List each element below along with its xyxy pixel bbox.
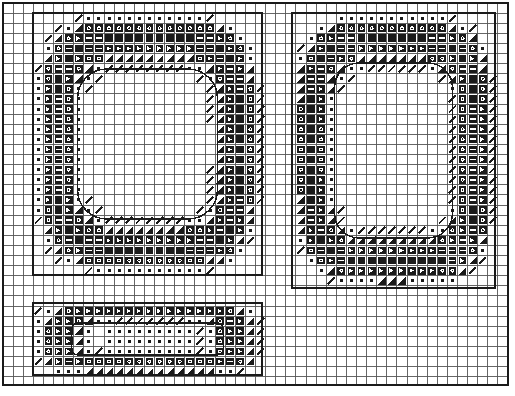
field-cell-level-2 bbox=[451, 279, 454, 282]
field-cell-level-5 bbox=[226, 176, 234, 184]
field-cell-level-4 bbox=[438, 55, 446, 63]
field-cell-level-6 bbox=[236, 75, 244, 83]
field-cell-level-4 bbox=[469, 247, 477, 255]
field-cell-level-2 bbox=[128, 17, 131, 20]
field-cell-level-6 bbox=[236, 206, 244, 214]
field-cell-level-7 bbox=[186, 34, 194, 42]
field-cell-level-5 bbox=[45, 186, 53, 194]
field-cell-level-5 bbox=[95, 307, 103, 315]
field-cell-level-2 bbox=[360, 279, 363, 282]
field-cell-level-2 bbox=[67, 27, 70, 30]
field-cell-level-2 bbox=[360, 67, 363, 70]
field-cell-level-5 bbox=[388, 45, 396, 53]
field-cell-level-6 bbox=[186, 247, 194, 255]
field-cell-level-7 bbox=[317, 236, 325, 244]
field-cell-level-4 bbox=[65, 307, 73, 315]
field-cell-level-5 bbox=[358, 267, 366, 275]
field-cell-level-5 bbox=[45, 105, 53, 113]
field-cell-level-4 bbox=[236, 358, 244, 366]
field-cell-level-5 bbox=[459, 257, 467, 265]
field-cell-level-7 bbox=[307, 125, 315, 133]
field-cell-level-6 bbox=[206, 45, 214, 53]
field-cell-level-4 bbox=[85, 24, 93, 32]
field-cell-level-5 bbox=[317, 45, 325, 53]
field-cell-level-4 bbox=[307, 55, 315, 63]
field-cell-level-2 bbox=[209, 340, 212, 343]
field-cell-level-4 bbox=[85, 55, 93, 63]
field-cell-level-5 bbox=[368, 267, 376, 275]
field-cell-level-5 bbox=[348, 247, 356, 255]
field-cell-level-5 bbox=[125, 307, 133, 315]
field-cell-level-5 bbox=[317, 176, 325, 184]
field-cell-level-4 bbox=[105, 257, 113, 265]
field-cell-level-5 bbox=[418, 267, 426, 275]
field-cell-level-2 bbox=[219, 370, 222, 373]
field-cell-level-7 bbox=[438, 257, 446, 265]
field-cell-level-6 bbox=[469, 166, 477, 174]
field-cell-level-4 bbox=[125, 24, 133, 32]
field-cell-level-6 bbox=[307, 75, 315, 83]
field-cell-level-5 bbox=[317, 95, 325, 103]
field-cell-level-5 bbox=[479, 196, 487, 204]
field-cell-level-4 bbox=[146, 257, 154, 265]
field-cell-level-6 bbox=[85, 34, 93, 42]
field-cell-level-5 bbox=[479, 125, 487, 133]
field-cell-level-4 bbox=[438, 236, 446, 244]
field-cell-level-5 bbox=[337, 55, 345, 63]
field-cell-level-5 bbox=[166, 236, 174, 244]
field-cell-level-6 bbox=[236, 85, 244, 93]
field-cell-level-5 bbox=[317, 206, 325, 214]
field-cell-level-5 bbox=[55, 337, 63, 345]
field-cell-level-7 bbox=[398, 257, 406, 265]
field-cell-level-4 bbox=[65, 247, 73, 255]
field-cell-level-5 bbox=[125, 45, 133, 53]
field-cell-level-4 bbox=[297, 125, 305, 133]
field-cell-level-5 bbox=[45, 196, 53, 204]
field-cell-level-2 bbox=[340, 279, 343, 282]
field-cell-level-5 bbox=[378, 45, 386, 53]
field-cell-level-2 bbox=[229, 259, 232, 262]
field-cell-level-4 bbox=[216, 75, 224, 83]
field-cell-level-4 bbox=[45, 327, 53, 335]
field-cell-level-4 bbox=[45, 206, 53, 214]
field-cell-level-5 bbox=[65, 196, 73, 204]
field-cell-level-5 bbox=[226, 125, 234, 133]
field-cell-level-6 bbox=[55, 95, 63, 103]
field-cell-level-7 bbox=[469, 95, 477, 103]
field-cell-level-2 bbox=[178, 17, 181, 20]
field-cell-level-4 bbox=[95, 55, 103, 63]
field-cell-level-5 bbox=[327, 236, 335, 244]
field-cell-level-2 bbox=[239, 249, 242, 252]
field-cell-level-2 bbox=[431, 229, 434, 232]
field-cell-level-2 bbox=[168, 340, 171, 343]
field-cell-level-5 bbox=[459, 216, 467, 224]
field-cell-level-4 bbox=[135, 358, 143, 366]
field-cell-level-6 bbox=[337, 45, 345, 53]
field-cell-level-2 bbox=[47, 239, 50, 242]
field-cell-level-4 bbox=[65, 125, 73, 133]
field-cell-level-7 bbox=[327, 247, 335, 255]
field-cell-level-2 bbox=[178, 350, 181, 353]
field-cell-level-2 bbox=[148, 330, 151, 333]
field-cell-level-4 bbox=[438, 267, 446, 275]
field-cell-level-6 bbox=[469, 146, 477, 154]
field-cell-level-5 bbox=[146, 307, 154, 315]
field-cell-level-4 bbox=[85, 257, 93, 265]
field-cell-level-2 bbox=[87, 340, 90, 343]
field-cell-level-5 bbox=[327, 34, 335, 42]
field-cell-level-5 bbox=[45, 166, 53, 174]
field-cell-level-2 bbox=[37, 188, 40, 191]
field-cell-level-2 bbox=[188, 330, 191, 333]
field-cell-level-4 bbox=[95, 358, 103, 366]
field-cell-level-5 bbox=[226, 166, 234, 174]
field-cell-level-2 bbox=[138, 330, 141, 333]
field-cell-level-2 bbox=[310, 259, 313, 262]
field-cell-level-5 bbox=[45, 115, 53, 123]
field-cell-level-5 bbox=[55, 317, 63, 325]
field-cell-level-4 bbox=[45, 75, 53, 83]
field-cell-level-2 bbox=[249, 57, 252, 60]
field-cell-level-7 bbox=[55, 75, 63, 83]
field-cell-level-4 bbox=[166, 24, 174, 32]
field-cell-level-4 bbox=[247, 135, 255, 143]
field-cell-level-6 bbox=[428, 34, 436, 42]
